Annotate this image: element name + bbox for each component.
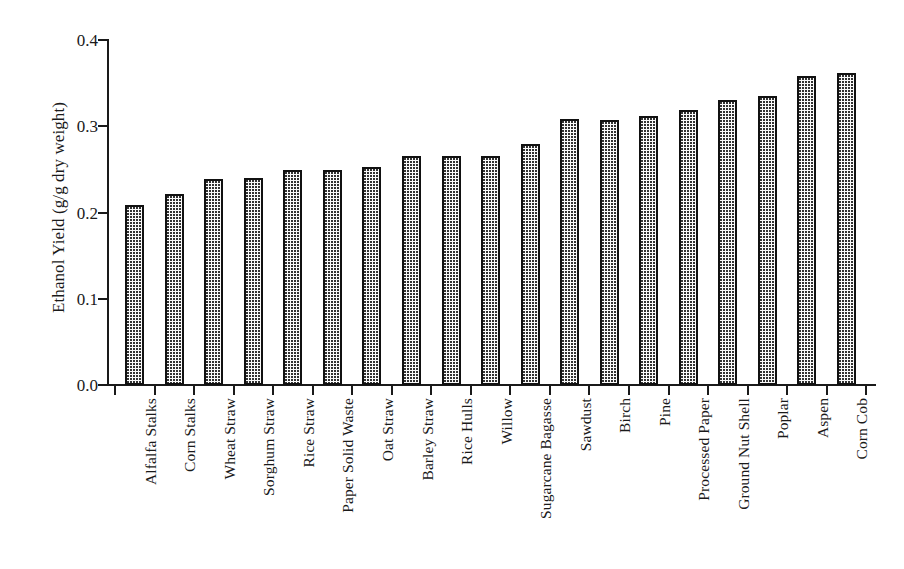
x-axis-tick-mark bbox=[747, 386, 749, 395]
x-axis-category-label: Ground Nut Shell bbox=[735, 398, 753, 510]
bar-chart: Ethanol Yield (g/g dry weight) 0.00.10.2… bbox=[0, 0, 904, 569]
x-axis-tick-mark bbox=[351, 386, 353, 395]
x-axis-tick-mark bbox=[114, 386, 116, 395]
x-axis-category-label: Rice Hulls bbox=[458, 398, 476, 465]
y-axis-tick-label: 0.3 bbox=[54, 118, 98, 135]
bar bbox=[679, 110, 698, 385]
bar bbox=[758, 96, 777, 385]
x-axis-category-label: Alfalfa Stalks bbox=[142, 398, 160, 485]
x-axis-category-label: Barley Straw bbox=[419, 398, 437, 481]
x-axis-tick-mark bbox=[588, 386, 590, 395]
bar bbox=[244, 178, 263, 385]
y-axis-tick-mark bbox=[98, 39, 107, 41]
x-axis-tick-mark bbox=[193, 386, 195, 395]
x-axis-tick-mark bbox=[154, 386, 156, 395]
bar bbox=[165, 194, 184, 385]
x-axis-category-label: Processed Paper bbox=[695, 398, 713, 501]
x-axis-tick-mark bbox=[786, 386, 788, 395]
x-axis-category-label: Willow bbox=[498, 398, 516, 444]
bar bbox=[362, 167, 381, 385]
y-axis-tick-labels: 0.00.10.20.30.4 bbox=[50, 0, 98, 569]
x-axis-tick-mark bbox=[668, 386, 670, 395]
y-axis-tick-mark bbox=[98, 212, 107, 214]
x-axis-category-label: Paper Solid Waste bbox=[339, 398, 357, 513]
x-axis-category-label: Birch bbox=[616, 398, 634, 433]
bar bbox=[797, 76, 816, 385]
y-axis-tick-label: 0.0 bbox=[54, 377, 98, 394]
x-axis-category-label: Sorghum Straw bbox=[260, 398, 278, 496]
x-axis-tick-mark bbox=[470, 386, 472, 395]
x-axis-tick-mark bbox=[826, 386, 828, 395]
y-axis-tick-mark bbox=[98, 384, 107, 386]
bar bbox=[521, 144, 540, 386]
x-axis-category-label: Corn Stalks bbox=[181, 398, 199, 472]
y-axis-tick-mark bbox=[98, 298, 107, 300]
x-axis-tick-mark bbox=[233, 386, 235, 395]
bar bbox=[481, 156, 500, 385]
x-axis-category-label: Wheat Straw bbox=[221, 398, 239, 480]
x-axis-category-label: Sugarcane Bagasse bbox=[537, 398, 555, 519]
bar bbox=[600, 120, 619, 385]
x-axis-tick-mark bbox=[272, 386, 274, 395]
x-axis-tick-mark bbox=[391, 386, 393, 395]
x-axis-category-label: Pine bbox=[656, 398, 674, 426]
x-axis-tick-mark bbox=[312, 386, 314, 395]
x-axis-tick-mark bbox=[628, 386, 630, 395]
x-axis-tick-mark bbox=[707, 386, 709, 395]
x-axis-tick-mark bbox=[549, 386, 551, 395]
x-axis-category-label: Oat Straw bbox=[379, 398, 397, 461]
bar bbox=[837, 73, 856, 385]
x-axis-category-label: Aspen bbox=[814, 398, 832, 438]
y-axis-tick-label: 0.1 bbox=[54, 291, 98, 308]
x-axis-tick-mark bbox=[430, 386, 432, 395]
plot-area bbox=[107, 40, 876, 385]
bar bbox=[560, 119, 579, 385]
bar bbox=[125, 205, 144, 385]
y-axis-tick-label: 0.2 bbox=[54, 205, 98, 222]
x-axis-category-label: Sawdust bbox=[577, 398, 595, 451]
x-axis-category-label: Rice Straw bbox=[300, 398, 318, 467]
bar bbox=[639, 116, 658, 385]
x-axis-category-label: Corn Cob bbox=[853, 398, 871, 460]
y-axis-tick-mark bbox=[98, 125, 107, 127]
bar bbox=[442, 156, 461, 385]
x-axis-tick-mark bbox=[865, 386, 867, 395]
x-axis-category-label: Poplar bbox=[774, 398, 792, 439]
y-axis-tick-label: 0.4 bbox=[54, 32, 98, 49]
bar bbox=[283, 170, 302, 385]
bar bbox=[323, 170, 342, 385]
bar bbox=[402, 156, 421, 385]
x-axis-tick-mark bbox=[509, 386, 511, 395]
bar bbox=[204, 179, 223, 385]
bar bbox=[718, 100, 737, 385]
